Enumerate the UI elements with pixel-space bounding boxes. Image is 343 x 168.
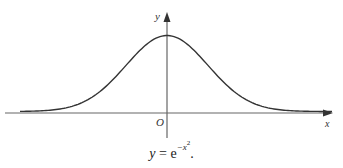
- caption-exponent-power: 2: [187, 139, 191, 147]
- caption-exponent-text: −x: [177, 142, 187, 152]
- caption-period: .: [190, 146, 194, 161]
- x-axis-arrow-icon: [323, 110, 333, 117]
- bell-curve: [20, 36, 332, 112]
- caption-exponent: −x2: [177, 142, 191, 152]
- y-axis-arrow-icon: [164, 12, 171, 22]
- caption-equals: =: [159, 146, 167, 161]
- origin-label: O: [156, 116, 164, 128]
- caption-lhs: y: [149, 146, 155, 161]
- y-axis-label: y: [154, 10, 160, 22]
- equation-caption: y = e−x2.: [0, 142, 343, 162]
- x-axis-label: x: [324, 118, 330, 129]
